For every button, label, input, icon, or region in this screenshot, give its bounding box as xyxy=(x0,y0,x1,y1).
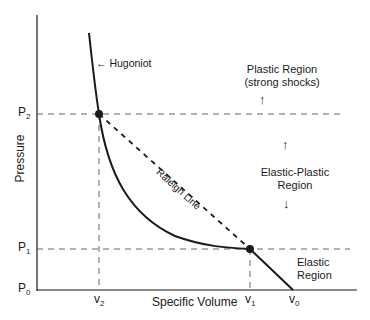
elastic-region-line2: Region xyxy=(297,269,332,282)
elastic-plastic-line2: Region xyxy=(245,179,345,192)
point-p2-v2 xyxy=(95,110,103,118)
tick-v0-sub: 0 xyxy=(295,299,299,308)
y-axis-label: Pressure xyxy=(14,129,27,189)
tick-p1: P1 xyxy=(18,241,30,258)
tick-p1-base: P xyxy=(18,240,26,254)
elastic-region-line1: Elastic xyxy=(297,256,332,269)
tick-v1: v1 xyxy=(245,293,255,310)
arrow-up-elastic-plastic-icon: ↑ xyxy=(282,138,289,151)
tick-v0: v0 xyxy=(289,293,299,310)
arrow-up-plastic-icon: ↑ xyxy=(259,93,266,106)
elastic-plastic-region-label: Elastic-Plastic Region xyxy=(245,166,345,192)
elastic-plastic-line1: Elastic-Plastic xyxy=(245,166,345,179)
tick-p0-sub: 0 xyxy=(26,288,30,297)
tick-v1-sub: 1 xyxy=(251,299,255,308)
arrow-down-elastic-plastic-icon: ↓ xyxy=(283,197,290,210)
tick-p0: P0 xyxy=(18,282,30,299)
tick-v2: v2 xyxy=(94,293,104,310)
tick-v2-sub: 2 xyxy=(100,299,104,308)
tick-p0-base: P xyxy=(18,281,26,295)
y-axis-label-text: Pressure xyxy=(13,134,27,182)
tick-p1-sub: 1 xyxy=(26,247,30,256)
tick-p2-sub: 2 xyxy=(26,112,30,121)
elastic-region-label: Elastic Region xyxy=(297,256,332,282)
tick-p2-base: P xyxy=(18,105,26,119)
hugoniot-label: ← Hugoniot xyxy=(96,57,151,70)
point-p1-v1 xyxy=(246,245,254,253)
plastic-region-label: Plastic Region (strong shocks) xyxy=(222,63,342,89)
plastic-region-line1: Plastic Region xyxy=(222,63,342,76)
plastic-region-line2: (strong shocks) xyxy=(222,76,342,89)
tick-p2: P2 xyxy=(18,106,30,123)
x-axis-label: Specific Volume xyxy=(152,296,237,309)
